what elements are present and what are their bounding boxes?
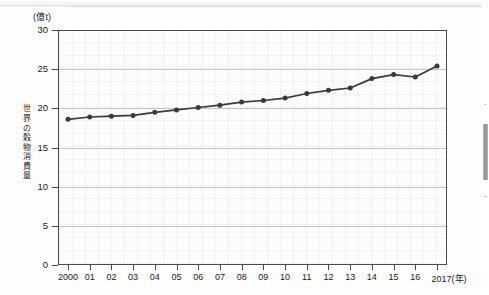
data-point-2008 — [239, 100, 244, 105]
data-point-2013 — [348, 86, 353, 91]
data-point-2000 — [66, 117, 71, 122]
data-point-2015 — [391, 72, 396, 77]
data-point-2007 — [217, 103, 222, 108]
data-point-2010 — [283, 96, 288, 101]
data-point-2011 — [304, 91, 309, 96]
data-point-2002 — [109, 114, 114, 119]
data-point-2006 — [196, 105, 201, 110]
chart-page: (億t) 世界の穀物消費量 051015202530 2000010203040… — [0, 0, 489, 295]
data-point-2004 — [152, 110, 157, 115]
data-point-2001 — [87, 115, 92, 120]
data-point-2016 — [413, 75, 418, 80]
data-point-2009 — [261, 98, 266, 103]
data-point-2012 — [326, 88, 331, 93]
data-series-line — [0, 0, 489, 295]
data-point-2014 — [369, 76, 374, 81]
data-point-2005 — [174, 107, 179, 112]
data-point-2017 — [435, 64, 440, 69]
series-line — [68, 66, 437, 119]
data-point-2003 — [131, 113, 136, 118]
